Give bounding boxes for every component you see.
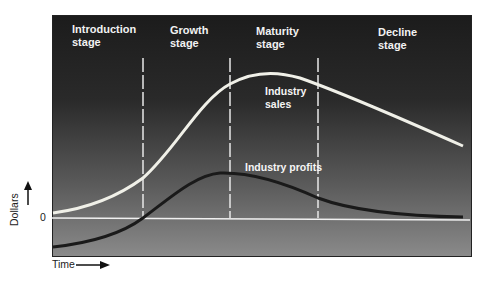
stage-label-introduction: Introduction stage	[72, 23, 136, 49]
y-axis-arrowhead-icon	[24, 181, 32, 190]
stage-label-maturity: Maturity stage	[256, 25, 299, 51]
sales-curve-label: Industry sales	[265, 85, 306, 110]
stage-label-decline: Decline stage	[378, 26, 417, 52]
profits-curve-label: Industry profits	[245, 161, 322, 174]
x-axis-label: Time	[52, 258, 75, 270]
zero-line	[52, 218, 470, 220]
stage-label-growth: Growth stage	[170, 24, 209, 50]
sales-curve	[53, 73, 463, 213]
y-axis-label: Dollars	[8, 193, 20, 226]
profits-curve	[53, 173, 463, 247]
zero-tick-label: 0	[40, 211, 46, 223]
x-axis-arrowhead-icon	[100, 261, 110, 269]
